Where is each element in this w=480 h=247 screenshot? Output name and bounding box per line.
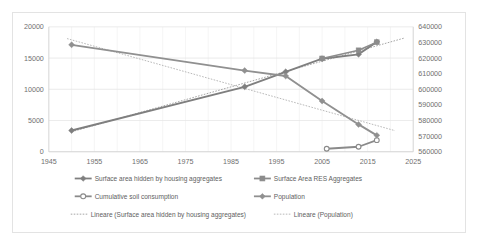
legend-item-3[interactable]: Population: [254, 193, 305, 201]
x-tick-label-4: 1985: [223, 158, 239, 166]
legend-item-0[interactable]: Surface area hidden by housing aggregate…: [75, 175, 223, 183]
x-tick-label-3: 1975: [178, 158, 194, 166]
y2-tick-label-7: 630000: [418, 39, 442, 47]
series-3-point-0: [69, 42, 75, 48]
y-tick-label-2: 10000: [24, 86, 44, 94]
legend-swatch-marker-0: [80, 176, 86, 182]
series-1-point-1: [356, 48, 361, 53]
x-tick-label-8: 2025: [405, 158, 421, 166]
y-tick-label-4: 20000: [24, 23, 44, 31]
x-tick-label-5: 1995: [269, 158, 285, 166]
y-tick-label-0: 0: [40, 148, 44, 156]
y2-tick-label-8: 640000: [418, 23, 442, 31]
legend-item-4[interactable]: Lineare (Surface area hidden by housing …: [71, 211, 246, 219]
x-tick-label-7: 2015: [360, 158, 376, 166]
series-1-point-2: [374, 40, 379, 45]
x-tick-label-1: 1955: [86, 158, 102, 166]
series-2-point-1: [356, 144, 361, 149]
y-tick-label-3: 15000: [24, 55, 44, 63]
legend-item-2[interactable]: Cumulative soil consumption: [75, 193, 179, 201]
y2-tick-label-2: 580000: [418, 117, 442, 125]
y-tick-label-1: 5000: [28, 117, 44, 125]
series-1-point-0: [320, 56, 325, 61]
y2-tick-label-5: 610000: [418, 70, 442, 78]
y2-tick-label-6: 620000: [418, 55, 442, 63]
legend-label-1: Surface Area RES Aggregates: [274, 175, 363, 183]
chart-figure: 0500010000150002000056000057000058000059…: [12, 12, 466, 233]
legend-label-0: Surface area hidden by housing aggregate…: [95, 175, 223, 183]
legend-item-1[interactable]: Surface Area RES Aggregates: [254, 175, 363, 183]
legend-swatch-marker-1: [260, 176, 265, 181]
x-tick-label-6: 2005: [314, 158, 330, 166]
y2-tick-label-0: 560000: [418, 148, 442, 156]
y2-tick-label-3: 590000: [418, 102, 442, 110]
y2-tick-label-1: 570000: [418, 133, 442, 141]
legend-label-5: Lineare (Population): [294, 211, 353, 219]
legend-label-2: Cumulative soil consumption: [95, 193, 179, 201]
series-line-2: [327, 140, 377, 149]
line-chart-canvas: 0500010000150002000056000057000058000059…: [13, 13, 465, 232]
y2-tick-label-4: 600000: [418, 86, 442, 94]
legend-item-5[interactable]: Lineare (Population): [274, 211, 353, 219]
x-tick-label-2: 1965: [132, 158, 148, 166]
x-tick-label-0: 1945: [41, 158, 57, 166]
legend-label-4: Lineare (Surface area hidden by housing …: [91, 211, 246, 219]
series-2-point-0: [324, 146, 329, 151]
legend-label-3: Population: [274, 193, 305, 201]
legend-swatch-marker-2: [81, 194, 86, 199]
series-0-point-0: [69, 128, 75, 134]
series-3-point-1: [242, 68, 248, 74]
legend-swatch-marker-3: [260, 193, 266, 199]
